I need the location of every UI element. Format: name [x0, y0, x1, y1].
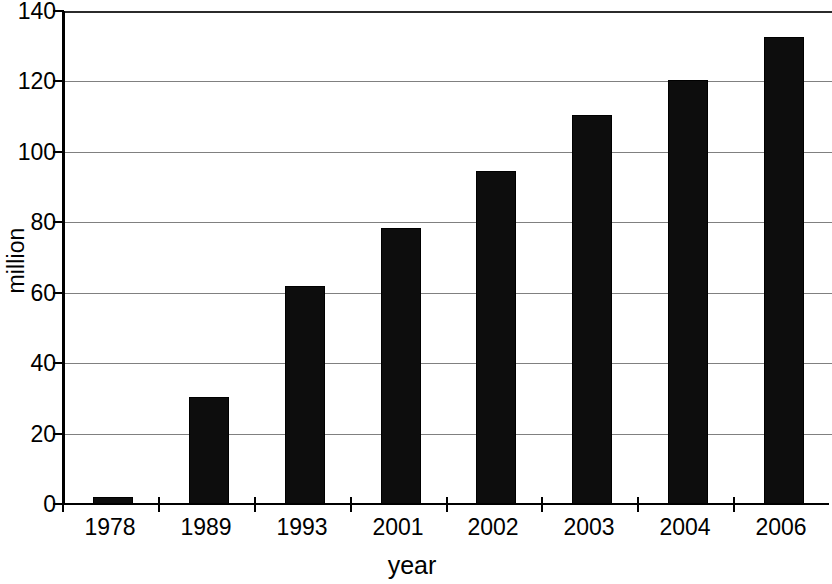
y-axis-tick: [53, 151, 64, 153]
bar: [285, 286, 325, 504]
x-axis-tick: [350, 497, 352, 512]
gridline: [65, 434, 832, 435]
gridline: [65, 293, 832, 294]
gridline: [65, 222, 832, 223]
x-axis-title: year: [62, 553, 762, 578]
x-axis-tick-label: 2003: [563, 516, 614, 539]
bar: [668, 80, 708, 504]
y-axis-tick-label: 120: [4, 70, 56, 93]
y-axis-tick: [53, 10, 64, 12]
x-axis-tick-label: 1978: [84, 516, 135, 539]
y-axis-tick-label: 40: [4, 352, 56, 375]
x-axis-tick: [62, 497, 64, 512]
bar: [381, 228, 421, 504]
gridline: [65, 363, 832, 364]
y-axis-tick: [53, 433, 64, 435]
bar: [572, 115, 612, 504]
x-axis-tick-label: 1989: [180, 516, 231, 539]
bar: [764, 37, 804, 504]
y-axis-tick-label: 80: [4, 211, 56, 234]
y-axis-tick: [53, 362, 64, 364]
x-axis-tick: [158, 497, 160, 512]
y-axis-tick-labels: 020406080100120140: [0, 0, 56, 584]
bar: [476, 171, 516, 504]
gridline: [65, 11, 832, 13]
x-axis-tick: [446, 497, 448, 512]
y-axis-tick: [53, 221, 64, 223]
y-axis-tick: [53, 80, 64, 82]
x-axis-tick: [541, 497, 543, 512]
x-axis-tick-label: 2004: [659, 516, 710, 539]
x-axis-tick-label: 1993: [276, 516, 327, 539]
x-axis-tick: [637, 497, 639, 512]
y-axis-tick-label: 100: [4, 140, 56, 163]
x-axis-line: [59, 503, 829, 505]
plot-inner: [65, 11, 832, 504]
gridline: [65, 152, 832, 153]
y-axis-tick-label: 60: [4, 281, 56, 304]
y-axis-tick-label: 20: [4, 422, 56, 445]
y-axis-tick-label: 0: [4, 493, 56, 516]
x-axis-tick: [733, 497, 735, 512]
x-axis-tick-label: 2006: [755, 516, 806, 539]
bar: [189, 397, 229, 504]
x-axis-tick-label: 2001: [372, 516, 423, 539]
x-axis-tick: [254, 497, 256, 512]
gridline: [65, 81, 832, 82]
y-axis-tick: [53, 292, 64, 294]
plot-area: [62, 11, 832, 504]
y-axis-tick-label: 140: [4, 0, 56, 23]
x-axis-tick-label: 2002: [467, 516, 518, 539]
